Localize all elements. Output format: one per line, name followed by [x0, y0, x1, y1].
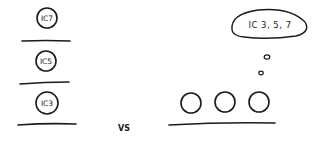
ic3-label: IC3 — [41, 99, 53, 108]
diagram-canvas: IC7 IC5 IC3 VS IC 3, 5, 7 — [0, 0, 323, 145]
stack-item-ic7: IC7 — [37, 8, 57, 28]
shelf-line-2 — [20, 82, 69, 84]
empty-circle-2 — [215, 92, 235, 112]
ic7-label: IC7 — [41, 14, 53, 23]
stack-item-ic3: IC3 — [36, 92, 58, 114]
thought-dot-large — [264, 55, 270, 59]
thought-bubble-text: IC 3, 5, 7 — [248, 20, 291, 30]
right-group: IC 3, 5, 7 — [169, 10, 307, 126]
empty-circle-1 — [181, 93, 201, 113]
baseline — [169, 123, 275, 125]
empty-circle-3 — [249, 92, 269, 112]
vs-label: VS — [118, 124, 130, 133]
shelf-line-1 — [22, 41, 70, 42]
ic5-label: IC5 — [40, 57, 52, 66]
stack-item-ic5: IC5 — [36, 51, 56, 71]
thought-dot-small — [259, 71, 263, 75]
shelf-line-3 — [18, 124, 76, 125]
thought-bubble: IC 3, 5, 7 — [232, 10, 307, 39]
left-stack: IC7 IC5 IC3 — [18, 8, 76, 125]
